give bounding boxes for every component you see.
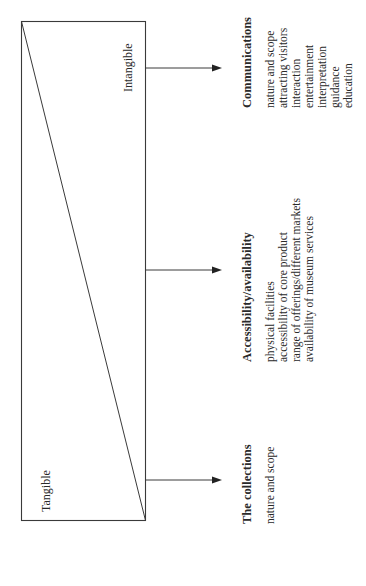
list-item: interpretation — [316, 17, 329, 108]
list-item: availability of museum services — [303, 198, 316, 362]
collections-block: The collections nature and scope — [240, 444, 277, 524]
diagonal-divider — [22, 22, 146, 521]
list-item: attracting visitors — [277, 17, 290, 108]
list-item: nature and scope — [264, 17, 277, 108]
tangible-label: Tangible — [40, 470, 53, 512]
list-item: physical facilities — [264, 198, 277, 362]
communications-title: Communications — [240, 17, 254, 108]
arrow-collections — [146, 477, 223, 484]
communications-block: Communications nature and scope attracti… — [240, 17, 355, 108]
list-item: accessibility of core product — [277, 198, 290, 362]
accessibility-block: Accessibility/availability physical faci… — [240, 198, 316, 362]
list-item: interaction — [290, 17, 303, 108]
intangible-label: Intangible — [122, 43, 135, 92]
collections-title: The collections — [240, 444, 254, 524]
list-item: guidance — [329, 17, 342, 108]
list-item: range of offerings/different markets — [290, 198, 303, 362]
list-item: education — [342, 17, 355, 108]
accessibility-title: Accessibility/availability — [240, 198, 254, 362]
list-item: nature and scope — [264, 444, 277, 524]
list-item: entertainment — [303, 17, 316, 108]
arrow-communications — [146, 65, 223, 72]
arrow-accessibility — [146, 267, 223, 274]
